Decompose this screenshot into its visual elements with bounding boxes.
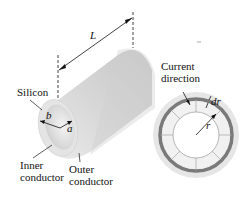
inner-conductor-leader [33, 145, 52, 158]
current-direction-label-2: direction [161, 73, 200, 84]
inner-conductor-label-1: Inner [20, 160, 43, 171]
cross-section [153, 92, 239, 178]
cylinder [32, 48, 155, 160]
inner-conductor-label-2: conductor [20, 172, 64, 183]
inner-radius-label: a [67, 123, 73, 134]
silicon-leader [30, 100, 42, 110]
outer-conductor-label-2: conductor [69, 176, 113, 187]
current-direction-label-1: Current [161, 61, 195, 72]
outer-conductor-label-1: Outer [69, 164, 94, 175]
dr-label: dr [211, 96, 221, 107]
outer-radius-label: b [46, 110, 52, 121]
silicon-label: Silicon [17, 87, 48, 98]
length-label: L [90, 30, 96, 41]
r-label: r [206, 120, 210, 131]
